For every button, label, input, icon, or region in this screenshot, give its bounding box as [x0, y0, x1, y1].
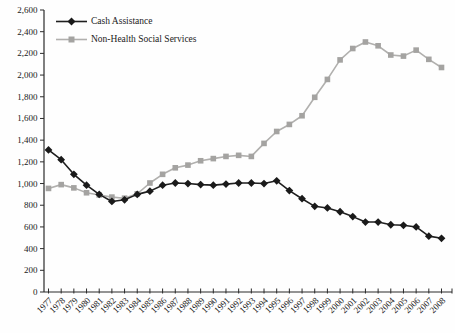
data-point-marker [362, 218, 370, 226]
legend-item-cash-assistance: Cash Assistance [55, 15, 197, 27]
chart-figure: 02004006008001,0001,2001,4001,6001,8002,… [0, 0, 455, 333]
data-point-marker [160, 172, 166, 178]
data-point-marker [325, 77, 331, 83]
chart-legend: Cash Assistance Non-Health Social Servic… [55, 15, 197, 45]
data-point-marker [299, 113, 305, 119]
legend-item-non-health-social-services: Non-Health Social Services [55, 33, 197, 45]
y-tick-label: 1,200 [17, 157, 38, 167]
y-tick-label: 1,800 [17, 92, 38, 102]
data-point-marker [439, 65, 445, 71]
data-point-marker [287, 122, 293, 128]
data-point-marker [249, 154, 255, 160]
data-point-marker [337, 57, 343, 63]
data-point-marker [387, 221, 395, 229]
data-point-marker [261, 141, 267, 147]
data-point-marker [146, 187, 154, 195]
data-point-marker [311, 202, 319, 210]
data-point-marker [374, 218, 382, 226]
series-cash-assistance [45, 146, 446, 242]
data-point-marker [222, 180, 230, 188]
y-tick-label: 2,200 [17, 48, 38, 58]
data-point-marker [172, 165, 178, 171]
y-tick-label: 1,600 [17, 113, 38, 123]
y-axis-ticks: 02004006008001,0001,2001,4001,6001,8002,… [17, 5, 44, 297]
data-point-marker [209, 181, 217, 189]
y-tick-label: 0 [33, 287, 38, 297]
data-point-marker [260, 180, 268, 188]
data-point-marker [198, 158, 204, 164]
series-line-non-health-social-services [49, 42, 442, 198]
y-tick-label: 400 [24, 244, 38, 254]
data-point-marker [413, 47, 419, 53]
data-point-marker [159, 181, 167, 189]
data-point-marker [171, 179, 179, 187]
data-point-marker [312, 95, 318, 101]
series-non-health-social-services [46, 39, 445, 201]
y-tick-label: 200 [24, 265, 38, 275]
chart-canvas: 02004006008001,0001,2001,4001,6001,8002,… [0, 0, 455, 333]
data-point-marker [324, 204, 332, 212]
data-point-marker [184, 180, 192, 188]
data-point-marker [401, 53, 407, 59]
data-point-marker [349, 213, 357, 221]
y-tick-label: 2,600 [17, 5, 38, 15]
data-point-marker [211, 156, 217, 162]
data-point-marker [388, 52, 394, 58]
data-point-marker [147, 180, 153, 186]
y-tick-label: 2,000 [17, 70, 38, 80]
legend-diamond [68, 17, 76, 25]
data-point-marker [400, 221, 408, 229]
y-tick-label: 1,000 [17, 179, 38, 189]
legend-label-cash-assistance: Cash Assistance [91, 15, 152, 27]
x-tick-label: 2008 [428, 295, 448, 315]
data-point-marker [235, 179, 243, 187]
legend-square [69, 36, 75, 42]
data-point-marker [350, 46, 356, 52]
square-marker-icon [55, 34, 88, 45]
data-point-marker [84, 190, 90, 196]
y-tick-label: 2,400 [17, 27, 38, 37]
data-point-marker [298, 195, 306, 203]
data-point-marker [336, 208, 344, 216]
data-point-marker [223, 154, 229, 160]
y-tick-label: 800 [24, 200, 38, 210]
y-tick-label: 1,400 [17, 135, 38, 145]
data-point-marker [46, 186, 52, 192]
series-line-cash-assistance [49, 150, 442, 238]
diamond-marker-icon [55, 16, 88, 27]
data-point-marker [426, 57, 432, 63]
data-point-marker [185, 162, 191, 168]
legend-label-non-health-social-services: Non-Health Social Services [91, 33, 197, 45]
data-point-marker [197, 181, 205, 189]
data-point-marker [247, 179, 255, 187]
data-point-marker [438, 234, 446, 242]
y-tick-label: 600 [24, 222, 38, 232]
data-point-marker [58, 182, 64, 188]
data-point-marker [363, 39, 369, 45]
data-point-marker [274, 129, 280, 135]
data-point-marker [236, 153, 242, 159]
data-point-marker [71, 185, 77, 191]
data-point-marker [375, 43, 381, 49]
